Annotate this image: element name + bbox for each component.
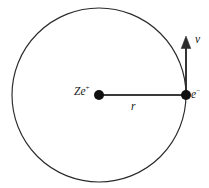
- electron-charge-sign: −: [196, 87, 200, 95]
- radius-label: r: [131, 101, 135, 113]
- nucleus-charge-text: Ze: [74, 85, 86, 97]
- velocity-label: v: [195, 34, 200, 46]
- orbit-diagram-svg: [0, 0, 209, 188]
- nucleus-dot: [94, 90, 104, 100]
- electron-label: e−: [191, 89, 200, 101]
- velocity-vector-arrowhead: [181, 36, 191, 49]
- nucleus-charge-sign: +: [86, 84, 90, 92]
- nucleus-charge-label: Ze+: [74, 86, 90, 98]
- bohr-model-diagram: Ze+ e− r v: [0, 0, 209, 188]
- electron-dot: [181, 90, 191, 100]
